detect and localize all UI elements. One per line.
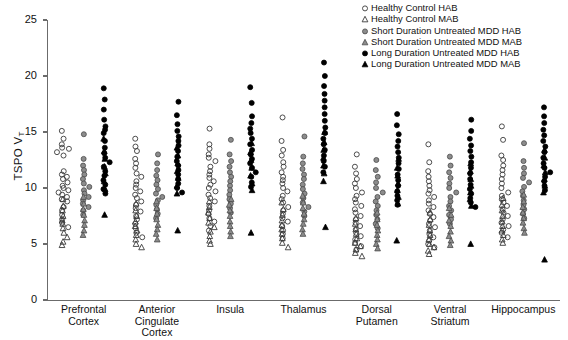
- data-point: [176, 149, 181, 154]
- data-point: [102, 156, 108, 162]
- data-point: [59, 242, 65, 248]
- legend-marker-shape: [363, 6, 368, 11]
- data-point: [501, 200, 506, 205]
- data-point: [521, 159, 526, 164]
- data-point: [396, 194, 402, 200]
- data-point: [134, 202, 139, 207]
- data-point: [302, 191, 307, 196]
- data-point: [353, 226, 359, 232]
- data-point: [321, 178, 327, 184]
- data-point: [522, 165, 527, 170]
- x-category-label-line: Striatum: [413, 316, 486, 328]
- data-point: [375, 217, 380, 222]
- data-point: [134, 227, 140, 233]
- data-point: [373, 241, 379, 247]
- legend-item[interactable]: Short Duration Untreated MDD MAB: [360, 37, 566, 48]
- data-point: [134, 214, 139, 219]
- data-point: [448, 163, 453, 168]
- data-point: [175, 160, 181, 166]
- data-point: [322, 147, 327, 152]
- data-point: [228, 196, 234, 202]
- data-point: [354, 171, 359, 176]
- legend-label: Long Duration Untreated MDD HAB: [371, 48, 520, 58]
- data-point: [101, 187, 106, 192]
- legend-item[interactable]: Short Duration Untreated MDD HAB: [360, 25, 566, 36]
- data-point: [447, 186, 452, 191]
- data-point: [426, 191, 431, 196]
- legend-item[interactable]: Long Duration Untreated MDD HAB: [360, 48, 566, 59]
- data-point: [500, 168, 505, 173]
- data-point: [81, 212, 86, 217]
- legend-marker-shape: [363, 51, 368, 56]
- data-point: [228, 233, 234, 239]
- data-point: [520, 189, 525, 194]
- data-point: [500, 240, 506, 246]
- data-point: [542, 183, 548, 189]
- data-point: [133, 221, 138, 226]
- data-point: [101, 136, 107, 142]
- data-point: [521, 198, 527, 204]
- data-point: [248, 149, 254, 155]
- data-point: [206, 211, 211, 216]
- x-category-label-line: Dorsal: [340, 304, 413, 316]
- legend-item[interactable]: Healthy Control MAB: [360, 14, 566, 25]
- data-point: [64, 234, 70, 240]
- data-point: [175, 152, 181, 158]
- data-point: [134, 149, 139, 154]
- data-point: [396, 161, 401, 166]
- data-point: [374, 158, 379, 163]
- legend-item[interactable]: Long Duration Untreated MDD MAB: [360, 59, 566, 70]
- data-point: [101, 178, 106, 183]
- data-point: [448, 229, 454, 235]
- data-point: [176, 172, 181, 177]
- data-point: [280, 211, 285, 216]
- data-point: [60, 192, 65, 197]
- data-point: [134, 179, 139, 184]
- data-point: [154, 226, 160, 232]
- data-point: [102, 173, 107, 178]
- data-point: [101, 86, 106, 91]
- legend-label: Long Duration Untreated MDD MAB: [371, 59, 521, 69]
- data-point: [447, 203, 452, 208]
- data-point: [354, 152, 359, 157]
- data-point: [133, 165, 138, 170]
- data-point: [352, 207, 357, 212]
- x-category-label: AnteriorCingulate Cortex: [120, 304, 193, 339]
- data-point: [427, 231, 432, 236]
- data-point: [101, 107, 106, 112]
- data-point: [501, 210, 506, 215]
- data-point: [139, 199, 144, 204]
- data-point: [500, 207, 505, 212]
- data-point: [249, 156, 254, 161]
- data-point: [427, 241, 433, 247]
- data-point: [154, 182, 159, 187]
- data-point: [499, 202, 505, 208]
- data-point: [468, 168, 474, 174]
- data-point: [354, 193, 359, 198]
- data-point: [59, 128, 64, 133]
- legend-item[interactable]: Healthy Control HAB: [360, 3, 566, 14]
- data-point: [228, 201, 233, 206]
- data-point: [208, 224, 213, 229]
- data-point: [206, 198, 212, 204]
- data-point: [499, 219, 505, 225]
- data-point: [102, 151, 107, 156]
- data-point: [227, 164, 232, 169]
- data-point: [80, 177, 85, 182]
- data-point: [321, 60, 326, 65]
- data-point: [426, 221, 431, 226]
- data-point: [306, 205, 311, 210]
- data-point: [133, 232, 139, 238]
- legend-marker-shape: [362, 17, 368, 23]
- data-point: [527, 180, 532, 185]
- data-point: [101, 164, 106, 169]
- data-point: [447, 221, 452, 226]
- data-point: [176, 163, 181, 168]
- data-point: [61, 186, 66, 191]
- data-point: [134, 161, 139, 166]
- data-point: [395, 193, 400, 198]
- data-point: [103, 155, 108, 160]
- data-point: [375, 194, 380, 199]
- data-point: [395, 187, 401, 193]
- legend-label: Short Duration Untreated MDD MAB: [371, 37, 522, 47]
